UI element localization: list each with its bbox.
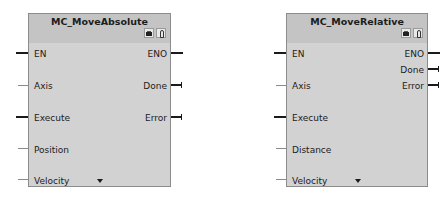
wire-error-end: [438, 82, 439, 88]
wire-error-end: [181, 114, 182, 120]
input-position: Position: [34, 145, 69, 155]
diagnostics-icon[interactable]: [156, 28, 166, 38]
output-done: Done: [400, 65, 424, 75]
input-axis: Axis: [292, 81, 311, 91]
wire-done-end: [438, 66, 439, 72]
wire-position[interactable]: [18, 148, 28, 149]
output-error: Error: [145, 113, 167, 123]
input-en: EN: [292, 49, 304, 59]
input-velocity: Velocity: [292, 176, 327, 186]
wire-en[interactable]: [16, 52, 28, 54]
wire-velocity[interactable]: [18, 179, 28, 180]
instance-db-icon[interactable]: [401, 28, 411, 38]
wire-en[interactable]: [274, 52, 286, 54]
block-title: MC_MoveAbsolute: [29, 16, 170, 27]
expand-arrow-icon[interactable]: [97, 179, 103, 183]
input-axis: Axis: [34, 81, 53, 91]
output-error: Error: [402, 81, 424, 91]
wire-velocity[interactable]: [276, 179, 286, 180]
input-velocity: Velocity: [34, 176, 69, 186]
wire-done[interactable]: [171, 84, 181, 86]
wire-execute[interactable]: [16, 116, 28, 118]
instance-db-icon[interactable]: [144, 28, 154, 38]
wire-distance[interactable]: [276, 148, 286, 149]
function-block-mc-moverelative[interactable]: MC_MoveRelative EN Axis Execute Distance…: [286, 13, 428, 187]
wire-axis[interactable]: [18, 85, 28, 86]
wire-eno[interactable]: [171, 52, 183, 54]
function-block-mc-moveabsolute[interactable]: MC_MoveAbsolute EN Axis Execute Position…: [28, 13, 171, 187]
wire-axis[interactable]: [276, 85, 286, 86]
wire-error[interactable]: [171, 116, 181, 118]
wire-done[interactable]: [428, 68, 438, 70]
wire-eno[interactable]: [428, 52, 440, 54]
output-eno: ENO: [147, 49, 167, 59]
block-header: MC_MoveAbsolute: [29, 14, 170, 43]
input-en: EN: [34, 49, 46, 59]
block-title: MC_MoveRelative: [287, 16, 427, 27]
wire-error[interactable]: [428, 84, 438, 86]
block-header: MC_MoveRelative: [287, 14, 427, 43]
wire-execute[interactable]: [274, 116, 286, 118]
expand-arrow-icon[interactable]: [355, 179, 361, 183]
diagnostics-icon[interactable]: [413, 28, 423, 38]
input-execute: Execute: [292, 113, 328, 123]
input-distance: Distance: [292, 145, 331, 155]
wire-done-end: [181, 82, 182, 88]
output-eno: ENO: [404, 49, 424, 59]
output-done: Done: [143, 81, 167, 91]
input-execute: Execute: [34, 113, 70, 123]
